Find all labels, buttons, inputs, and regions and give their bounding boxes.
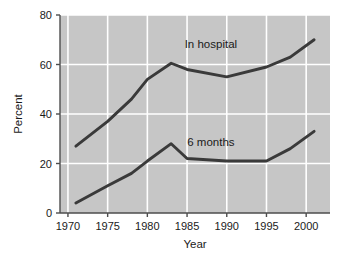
x-axis-tick-label: 1985 — [175, 220, 199, 232]
y-axis-tick-label: 0 — [46, 207, 52, 219]
y-axis-tick-label: 20 — [40, 158, 52, 170]
y-axis-tick-label: 40 — [40, 108, 52, 120]
y-axis-tick-label: 80 — [40, 9, 52, 21]
y-axis-title: Percent — [12, 93, 24, 133]
x-axis-tick-label: 1990 — [215, 220, 239, 232]
x-axis-tick-label: 2000 — [294, 220, 318, 232]
x-axis-tick-label: 1970 — [56, 220, 80, 232]
line-chart: 020406080 1970197519801985199019952000 I… — [0, 0, 345, 260]
chart-figure: 020406080 1970197519801985199019952000 I… — [0, 0, 345, 260]
x-axis-tick-label: 1995 — [254, 220, 278, 232]
x-axis-tick-label: 1975 — [95, 220, 119, 232]
series-annotation-label: In hospital — [185, 38, 237, 50]
x-axis-tick-label: 1980 — [135, 220, 159, 232]
y-axis-tick-label: 60 — [40, 59, 52, 71]
series-annotation-label: 6 months — [187, 136, 235, 148]
x-axis-title: Year — [183, 238, 206, 250]
